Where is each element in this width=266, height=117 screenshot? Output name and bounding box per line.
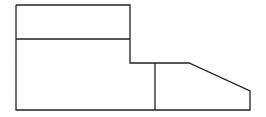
diagram-canvas [0, 0, 266, 117]
outer-outline [16, 5, 250, 110]
line-drawing [0, 0, 266, 117]
inner-lines [16, 39, 155, 110]
